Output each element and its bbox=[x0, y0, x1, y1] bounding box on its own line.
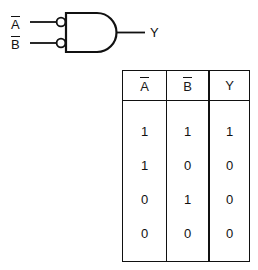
truth-table-header-b-text: B bbox=[183, 77, 192, 94]
table-cell: 0 bbox=[141, 217, 148, 251]
table-cell: 0 bbox=[226, 217, 233, 251]
input-label-a-text: A bbox=[11, 16, 20, 31]
table-cell: 1 bbox=[184, 115, 191, 149]
input-label-b: B bbox=[11, 36, 20, 51]
input-label-b-text: B bbox=[11, 36, 20, 51]
table-cell: 0 bbox=[226, 149, 233, 183]
truth-table-column-y: 1 0 0 0 bbox=[209, 101, 249, 261]
truth-table-header-a: A bbox=[123, 71, 166, 100]
table-cell: 0 bbox=[141, 183, 148, 217]
table-cell: 1 bbox=[141, 149, 148, 183]
table-cell: 0 bbox=[184, 217, 191, 251]
output-label-y-text: Y bbox=[150, 25, 159, 40]
table-cell: 1 bbox=[184, 183, 191, 217]
truth-table-header-b: B bbox=[166, 71, 209, 100]
inversion-bubble-b-icon bbox=[57, 39, 66, 48]
inversion-bubble-a-icon bbox=[57, 18, 66, 27]
truth-table-header-y: Y bbox=[209, 71, 249, 100]
truth-table-body: 1 1 0 0 1 0 1 0 1 0 0 0 bbox=[123, 101, 249, 261]
truth-table: A B Y 1 1 0 0 1 0 1 0 1 bbox=[122, 70, 250, 262]
logic-gate-figure: A B Y bbox=[0, 0, 185, 68]
diagram-canvas: A B Y A B Y 1 1 0 0 bbox=[0, 0, 258, 270]
table-cell: 1 bbox=[141, 115, 148, 149]
truth-table-header-row: A B Y bbox=[123, 71, 249, 101]
table-cell: 0 bbox=[226, 183, 233, 217]
output-label-y: Y bbox=[150, 26, 159, 39]
truth-table-column-a: 1 1 0 0 bbox=[123, 101, 166, 261]
truth-table-header-y-text: Y bbox=[225, 78, 234, 93]
table-cell: 0 bbox=[184, 149, 191, 183]
input-label-a: A bbox=[11, 16, 20, 31]
and-gate-body-icon bbox=[66, 13, 117, 52]
truth-table-header-a-text: A bbox=[140, 77, 149, 94]
table-cell: 1 bbox=[226, 115, 233, 149]
truth-table-column-b: 1 0 1 0 bbox=[166, 101, 209, 261]
